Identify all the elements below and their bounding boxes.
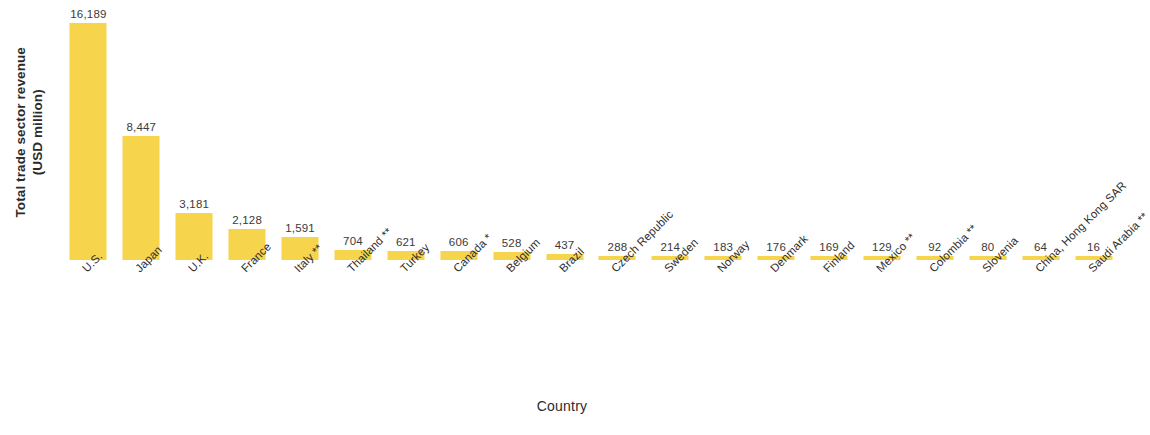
plot-area: 16,1898,4473,1812,1281,59170462160652843… [62, 0, 1120, 262]
bar-value-label: 16 [1087, 241, 1100, 253]
bar-group: 183 [697, 0, 750, 262]
bar-group: 1,591 [274, 0, 327, 262]
bar-group: 704 [327, 0, 380, 262]
bar-value-label: 8,447 [126, 121, 156, 133]
bar-value-label: 80 [981, 241, 994, 253]
bar-group: 288 [591, 0, 644, 262]
y-axis-title-line-1: Total trade sector revenue [12, 47, 29, 217]
bar-value-label: 528 [502, 237, 522, 249]
bar-group: 169 [803, 0, 856, 262]
y-axis-title-line-2: (USD million) [29, 47, 46, 217]
bar-group: 64 [1014, 0, 1067, 262]
bar-group: 129 [856, 0, 909, 262]
bar-group: 92 [908, 0, 961, 262]
bar-group: 528 [485, 0, 538, 262]
bar[interactable] [176, 213, 213, 260]
bar-value-label: 621 [396, 236, 416, 248]
bar-group: 176 [750, 0, 803, 262]
x-axis-title: Country [0, 398, 1124, 414]
bar[interactable] [123, 136, 160, 260]
bar-value-label: 3,181 [179, 198, 209, 210]
bar-value-label: 437 [555, 239, 575, 251]
y-axis-title: Total trade sector revenue (USD million) [0, 0, 58, 265]
bar-group: 621 [379, 0, 432, 262]
bar-group: 3,181 [168, 0, 221, 262]
bar-group: 16,189 [62, 0, 115, 262]
bar-value-label: 92 [928, 241, 941, 253]
bar-value-label: 1,591 [285, 222, 315, 234]
bar-group: 606 [432, 0, 485, 262]
bar-value-label: 606 [449, 236, 469, 248]
bar-value-label: 64 [1034, 241, 1047, 253]
bar-value-label: 2,128 [232, 214, 262, 226]
bar[interactable] [70, 23, 107, 260]
bar-value-label: 16,189 [70, 8, 106, 20]
bar-value-label: 704 [343, 235, 363, 247]
bar-group: 437 [538, 0, 591, 262]
bar-group: 8,447 [115, 0, 168, 262]
bar-group: 2,128 [221, 0, 274, 262]
